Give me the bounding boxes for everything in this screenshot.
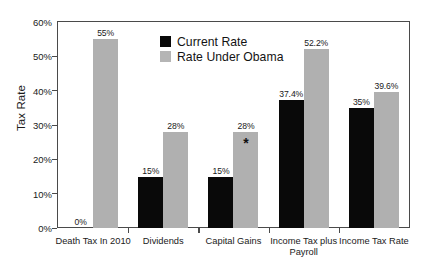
bar-value-label: 37.4% xyxy=(279,89,303,99)
bar: 28%* xyxy=(233,132,258,228)
asterisk-annotation-icon: * xyxy=(243,136,248,150)
category-label-line: Payroll xyxy=(263,247,345,258)
bar: 28% xyxy=(163,132,188,228)
y-tick-label: 30% xyxy=(20,120,52,131)
bar-group: 35%39.6% xyxy=(339,22,409,228)
y-tick-label: 0% xyxy=(20,223,52,234)
bar-value-label: 28% xyxy=(167,121,184,131)
y-tick-label: 50% xyxy=(20,51,52,62)
category-label-line: Income Tax Rate xyxy=(333,236,415,247)
bar-value-label: 55% xyxy=(97,28,114,38)
y-axis-title: Tax Rate xyxy=(15,63,27,153)
legend-item-rate-under-obama: Rate Under Obama xyxy=(160,49,283,64)
y-tick-label: 20% xyxy=(20,154,52,165)
legend-label-current-rate: Current Rate xyxy=(177,35,247,49)
chart-legend: Current Rate Rate Under Obama xyxy=(160,34,283,64)
y-tick-label: 60% xyxy=(20,17,52,28)
x-tick-mark xyxy=(198,228,199,233)
bar-value-label: 28% xyxy=(238,121,255,131)
bar: 39.6% xyxy=(374,92,399,228)
bar: 37.4% xyxy=(279,100,304,228)
bar-value-label: 52.2% xyxy=(304,38,328,48)
bar: 35% xyxy=(349,108,374,228)
bar-chart: Tax Rate 0%10%20%30%40%50%60% 0%55%15%28… xyxy=(0,0,432,272)
bar-value-label: 39.6% xyxy=(374,81,398,91)
x-axis-category-label: Income Tax Rate xyxy=(333,236,415,247)
bar: 15% xyxy=(208,177,233,229)
bar: 15% xyxy=(138,177,163,229)
legend-item-current-rate: Current Rate xyxy=(160,34,283,49)
legend-swatch-icon-current-rate xyxy=(160,36,171,47)
bar-value-label: 15% xyxy=(142,166,159,176)
bar-value-label: 35% xyxy=(353,97,370,107)
bar-group: 0%55% xyxy=(58,22,128,228)
bar: 52.2% xyxy=(304,49,329,228)
legend-swatch-icon-rate-under-obama xyxy=(160,51,171,62)
x-tick-mark xyxy=(339,228,340,233)
bar-value-label: 0% xyxy=(74,217,86,227)
legend-label-rate-under-obama: Rate Under Obama xyxy=(177,50,283,64)
x-tick-mark xyxy=(128,228,129,233)
bar-value-label: 15% xyxy=(213,166,230,176)
x-tick-mark xyxy=(269,228,270,233)
bar: 55% xyxy=(93,39,118,228)
y-tick-label: 40% xyxy=(20,85,52,96)
y-tick-label: 10% xyxy=(20,188,52,199)
